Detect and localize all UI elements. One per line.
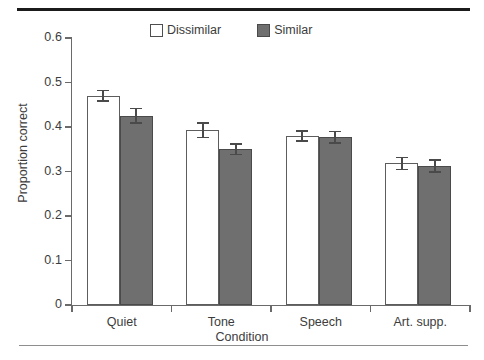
y-tick-mark [65,82,72,83]
error-bar-cap-top [429,159,441,161]
error-bar-cap-bottom [97,100,109,102]
error-bar-cap-top [230,143,242,145]
legend-label: Dissimilar [167,23,221,37]
legend-entry-dissimilar[interactable]: Dissimilar [150,23,221,37]
error-bar-cap-bottom [429,171,441,173]
error-bar [97,90,109,102]
bar-chart: DissimilarSimilar Proportion correct Con… [0,0,484,360]
figure-top-rule [17,8,470,11]
error-bar-cap-bottom [130,122,142,124]
bar-art-supp-similar [418,166,451,305]
error-bar-cap-bottom [396,169,408,171]
bar-quiet-dissimilar [87,96,120,305]
error-bar [429,159,441,172]
legend-entry-similar[interactable]: Similar [257,23,312,37]
open-square-swatch [150,24,163,37]
x-tick-mark [171,305,172,312]
y-tick-label: 0 [55,297,62,311]
x-group-label-quiet: Quiet [107,315,137,329]
bar-speech-dissimilar [286,136,319,305]
y-tick-mark [65,126,72,127]
y-axis-title: Proportion correct [16,88,30,218]
x-tick-mark [370,305,371,312]
error-bar [197,122,209,138]
plot-region [72,38,470,305]
error-bar [396,157,408,170]
error-bar [230,143,242,155]
y-tick-mark [65,171,72,172]
bar-tone-dissimilar [186,130,219,305]
error-bar-cap-bottom [329,142,341,144]
y-tick-label: 0.3 [44,164,62,178]
error-bar-cap-top [130,108,142,110]
y-tick-label: 0.6 [44,30,62,44]
error-bar [130,108,142,124]
y-tick-label: 0.1 [44,253,62,267]
chart-legend: DissimilarSimilar [150,23,312,37]
error-bar [329,131,341,144]
filled-square-swatch [257,24,270,37]
y-tick-label: 0.5 [44,75,62,89]
error-bar-cap-bottom [230,154,242,156]
x-axis-title: Condition [0,330,484,344]
bar-speech-similar [319,137,352,305]
y-tick-mark [65,260,72,261]
y-tick-label: 0.2 [44,208,62,222]
x-tick-mark [71,305,72,312]
bar-quiet-similar [120,116,153,305]
error-bar-cap-bottom [296,140,308,142]
x-group-label-speech: Speech [300,315,342,329]
error-bar-cap-top [396,157,408,159]
x-tick-mark [270,305,271,312]
legend-label: Similar [274,23,312,37]
error-bar-cap-bottom [197,137,209,139]
error-bar [296,130,308,142]
error-bar-cap-top [329,131,341,133]
x-group-label-tone: Tone [208,315,235,329]
bar-art-supp-dissimilar [385,163,418,305]
y-tick-mark [65,215,72,216]
y-tick-mark [65,37,72,38]
bar-tone-similar [219,149,252,305]
x-group-label-art-supp: Art. supp. [394,315,448,329]
y-tick-label: 0.4 [44,119,62,133]
figure-bottom-rule [19,345,468,346]
x-tick-mark [469,305,470,312]
error-bar-cap-top [97,90,109,92]
error-bar-cap-top [296,130,308,132]
error-bar-cap-top [197,122,209,124]
